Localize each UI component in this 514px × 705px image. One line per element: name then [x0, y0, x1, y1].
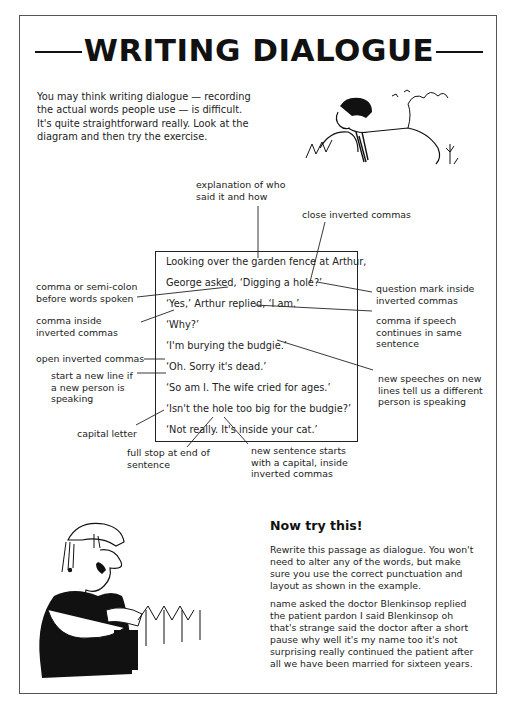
exercise-heading: Now try this! — [270, 518, 363, 533]
exercise-passage: name asked the doctor Blenkinsop replied… — [270, 598, 475, 669]
man-with-spade-illustration — [36, 510, 221, 685]
exercise-instructions: Rewrite this passage as dialogue. You wo… — [270, 544, 475, 592]
